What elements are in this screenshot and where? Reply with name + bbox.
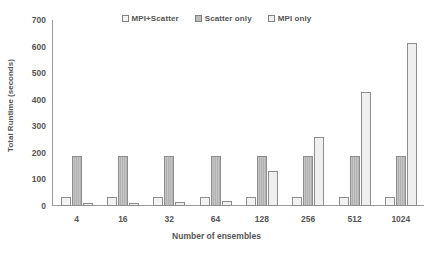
y-axis-tick-label: 300 xyxy=(32,121,52,131)
bar-mpi-scatter-512 xyxy=(339,197,349,206)
bar-mpi-only-512 xyxy=(361,92,371,206)
bar-chart: MPI+Scatter Scatter only MPI only Total … xyxy=(0,0,433,254)
bar-mpi-scatter-32 xyxy=(153,197,163,206)
bar-groups: 41632641282565121024 xyxy=(53,20,424,206)
bar-mpi-scatter-4 xyxy=(61,197,71,206)
x-axis-tick-label: 128 xyxy=(239,206,285,224)
y-axis-tick-label: 200 xyxy=(32,148,52,158)
y-axis-title-text: Total Runtime (seconds) xyxy=(6,59,15,152)
plot-area: 7006005004003002001000 41632641282565121… xyxy=(52,20,424,206)
y-axis-tick-label: 600 xyxy=(32,42,52,52)
bar-mpi-only-256 xyxy=(314,137,324,206)
bar-group: 512 xyxy=(331,20,377,206)
bar-scatter-only-64 xyxy=(211,156,221,206)
bar-scatter-only-16 xyxy=(118,156,128,206)
x-axis-title: Number of ensembles xyxy=(0,231,433,241)
bar-mpi-scatter-1024 xyxy=(385,197,395,206)
bar-mpi-scatter-16 xyxy=(107,197,117,206)
bar-group: 4 xyxy=(53,20,99,206)
y-axis-tick-label: 100 xyxy=(32,174,52,184)
x-axis-tick-label: 256 xyxy=(285,206,331,224)
bar-mpi-only-128 xyxy=(268,171,278,206)
x-axis-tick-label: 32 xyxy=(146,206,192,224)
y-axis-tick-label: 500 xyxy=(32,68,52,78)
bar-group: 1024 xyxy=(378,20,424,206)
bar-mpi-scatter-128 xyxy=(246,197,256,206)
y-axis-title: Total Runtime (seconds) xyxy=(2,0,18,210)
x-axis-tick-label: 512 xyxy=(331,206,377,224)
bar-mpi-scatter-256 xyxy=(292,197,302,206)
y-axis-tick-label: 400 xyxy=(32,95,52,105)
x-axis-tick-label: 4 xyxy=(53,206,99,224)
bar-scatter-only-4 xyxy=(72,156,82,206)
bar-group: 256 xyxy=(285,20,331,206)
bar-group: 64 xyxy=(192,20,238,206)
bar-scatter-only-256 xyxy=(303,156,313,206)
bar-scatter-only-512 xyxy=(350,156,360,206)
y-axis-tick-label: 700 xyxy=(32,15,52,25)
bar-scatter-only-1024 xyxy=(396,156,406,206)
bar-scatter-only-32 xyxy=(164,156,174,206)
bar-group: 128 xyxy=(239,20,285,206)
bar-mpi-only-1024 xyxy=(407,43,417,206)
x-axis-tick-label: 1024 xyxy=(378,206,424,224)
bar-group: 32 xyxy=(146,20,192,206)
bar-group: 16 xyxy=(100,20,146,206)
x-axis-tick-label: 64 xyxy=(192,206,238,224)
bar-mpi-scatter-64 xyxy=(200,197,210,206)
y-axis-tick-label: 0 xyxy=(41,201,52,211)
bar-scatter-only-128 xyxy=(257,156,267,206)
x-axis-tick-label: 16 xyxy=(100,206,146,224)
